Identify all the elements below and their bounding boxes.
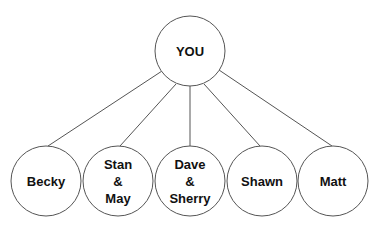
node-matt-label: Matt xyxy=(298,146,368,216)
edge-you-becky xyxy=(48,71,162,146)
node-you-label: YOU xyxy=(155,16,225,86)
node-dave-sherry-label: Dave & Sherry xyxy=(155,146,225,216)
node-shawn-label: Shawn xyxy=(227,146,297,216)
node-becky-label: Becky xyxy=(11,146,81,216)
edge-you-shawn xyxy=(204,84,260,146)
edge-you-matt xyxy=(219,70,332,146)
node-stan-may-label: Stan & May xyxy=(83,146,153,216)
